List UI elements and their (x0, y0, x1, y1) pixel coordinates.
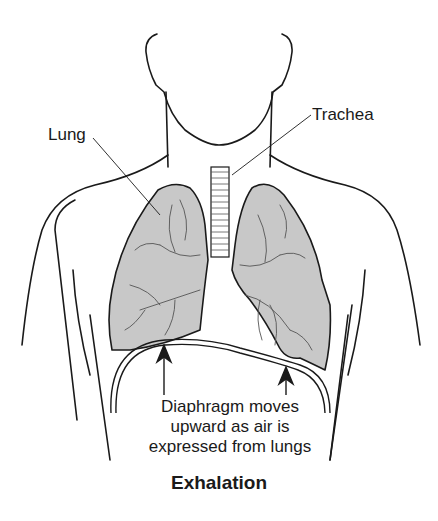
abdomen-left (90, 315, 110, 460)
right-lung (232, 184, 330, 370)
abdomen-right (330, 315, 348, 460)
exhalation-diagram: Lung Trachea Diaphragm moves upward as a… (0, 0, 438, 521)
trachea-label: Trachea (312, 105, 374, 125)
left-lung (109, 184, 208, 350)
lung-label: Lung (48, 125, 86, 145)
caption-line-2: upward as air is (130, 417, 330, 437)
rib-left-outer (55, 200, 77, 420)
caption-line-1: Diaphragm moves (130, 397, 330, 417)
caption-line-3: expressed from lungs (130, 437, 330, 457)
diagram-title: Exhalation (0, 472, 438, 494)
trachea (211, 167, 229, 257)
rib-left-inner (73, 270, 90, 375)
diaphragm-caption: Diaphragm moves upward as air is express… (130, 397, 330, 457)
lung-leader-line (93, 138, 160, 215)
head-outline (146, 34, 292, 145)
rib-right-inner (348, 270, 365, 375)
